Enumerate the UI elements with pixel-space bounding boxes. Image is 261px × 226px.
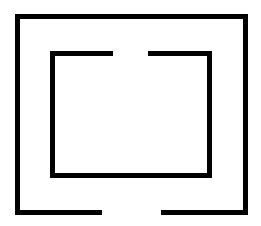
nested-rectangles-diagram: [0, 0, 261, 226]
inner-rectangle-wall: [53, 54, 210, 176]
maze-diagram: [0, 0, 261, 226]
